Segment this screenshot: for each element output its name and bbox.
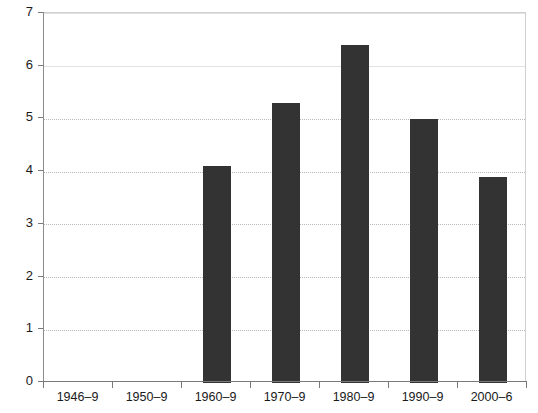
y-tick-label-1: 1 bbox=[0, 321, 33, 334]
x-axis-line bbox=[43, 381, 527, 382]
y-tick-label-4: 4 bbox=[0, 163, 33, 176]
x-tick-mark-2 bbox=[181, 382, 182, 388]
y-tick-label-7: 7 bbox=[0, 5, 33, 18]
plot-area bbox=[43, 12, 526, 382]
x-tick-label-1960-9: 1960–9 bbox=[181, 391, 250, 404]
x-tick-mark-7 bbox=[526, 382, 527, 388]
x-tick-mark-3 bbox=[250, 382, 251, 388]
y-tick-mark-6 bbox=[38, 65, 43, 66]
gridline-6 bbox=[44, 66, 525, 67]
bar-1990-9 bbox=[410, 119, 438, 383]
x-tick-label-1990-9: 1990–9 bbox=[388, 391, 457, 404]
y-tick-mark-5 bbox=[38, 117, 43, 118]
bar-1970-9 bbox=[272, 103, 300, 383]
bar-2000-6 bbox=[479, 177, 507, 383]
x-tick-label-1950-9: 1950–9 bbox=[112, 391, 181, 404]
x-tick-label-1970-9: 1970–9 bbox=[250, 391, 319, 404]
y-tick-label-2: 2 bbox=[0, 269, 33, 282]
y-axis-line bbox=[43, 12, 44, 382]
bar-1960-9 bbox=[203, 166, 231, 383]
y-tick-mark-1 bbox=[38, 328, 43, 329]
y-tick-mark-2 bbox=[38, 276, 43, 277]
x-tick-label-1980-9: 1980–9 bbox=[319, 391, 388, 404]
y-tick-label-0: 0 bbox=[0, 374, 33, 387]
gridline-7 bbox=[44, 13, 525, 14]
y-tick-label-5: 5 bbox=[0, 110, 33, 123]
y-tick-label-3: 3 bbox=[0, 216, 33, 229]
x-tick-label-2000-6: 2000–6 bbox=[457, 391, 526, 404]
x-tick-mark-6 bbox=[457, 382, 458, 388]
y-tick-label-6: 6 bbox=[0, 58, 33, 71]
x-tick-mark-5 bbox=[388, 382, 389, 388]
x-tick-mark-4 bbox=[319, 382, 320, 388]
x-tick-label-1946-9: 1946–9 bbox=[43, 391, 112, 404]
y-tick-mark-7 bbox=[38, 12, 43, 13]
bar-chart: 7 6 5 4 3 2 1 0 1946–9 1950–9 1960–9 197… bbox=[0, 0, 538, 413]
x-tick-mark-0 bbox=[43, 382, 44, 388]
y-tick-mark-4 bbox=[38, 170, 43, 171]
x-tick-mark-1 bbox=[112, 382, 113, 388]
bar-1980-9 bbox=[341, 45, 369, 383]
y-tick-mark-3 bbox=[38, 223, 43, 224]
